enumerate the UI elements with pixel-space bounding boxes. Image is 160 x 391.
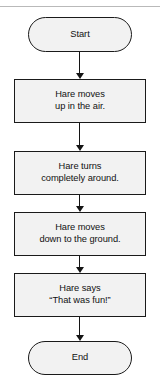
flow-node-end: End — [28, 341, 132, 375]
flow-node-label: End — [69, 352, 91, 364]
flow-node-step-1: Hare moves up in the air. — [14, 79, 146, 123]
connector-step-2-to-step-3 — [79, 195, 80, 206]
flow-node-step-3: Hare moves down to the ground. — [14, 212, 146, 256]
arrowhead-icon-step-1-to-step-2 — [76, 145, 84, 151]
connector-step-4-to-end — [79, 317, 80, 335]
arrowhead-icon-step-3-to-step-4 — [76, 267, 84, 273]
arrowhead-icon-step-2-to-step-3 — [76, 206, 84, 212]
flow-node-label: Start — [67, 29, 92, 41]
flowchart-canvas: StartHare moves up in the air.Hare turns… — [0, 0, 160, 391]
connector-step-1-to-step-2 — [79, 123, 80, 145]
connector-start-to-step-1 — [79, 52, 80, 73]
arrowhead-icon-step-4-to-end — [76, 335, 84, 341]
flow-node-label: Hare moves up in the air. — [52, 89, 108, 112]
flow-node-step-2: Hare turns completely around. — [14, 151, 146, 195]
arrowhead-icon-start-to-step-1 — [76, 73, 84, 79]
flow-node-label: Hare turns completely around. — [38, 161, 122, 184]
flow-node-start: Start — [28, 17, 132, 52]
flow-node-step-4: Hare says “That was fun!” — [14, 273, 146, 317]
connector-step-3-to-step-4 — [79, 256, 80, 267]
flow-node-label: Hare says “That was fun!” — [46, 283, 113, 306]
flow-node-label: Hare moves down to the ground. — [36, 222, 123, 245]
top-divider-rule — [0, 6, 160, 7]
